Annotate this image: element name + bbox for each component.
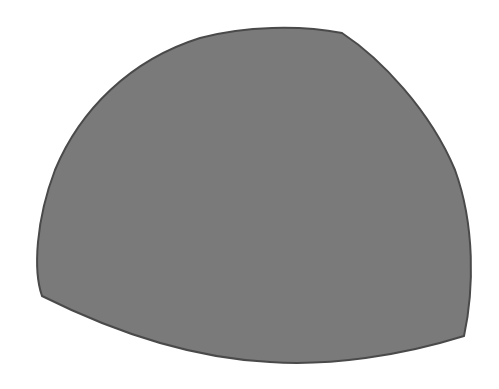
figure-canvas [0,0,499,389]
curved-triangle-shape [0,0,499,389]
curved-triangle-path [37,28,471,363]
